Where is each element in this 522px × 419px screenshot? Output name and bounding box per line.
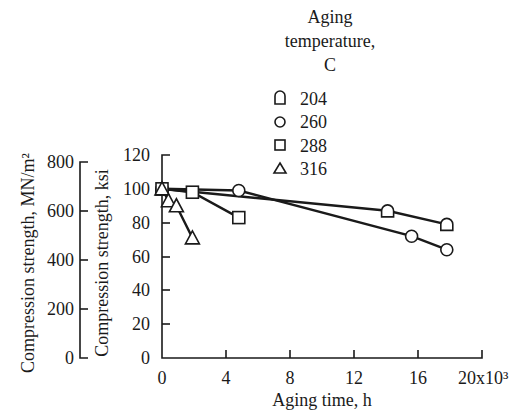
legend-title-line-3: C xyxy=(324,55,336,75)
x-tick-8: 8 xyxy=(286,368,295,388)
dome-marker-icon xyxy=(275,91,285,104)
legend-title-line-1: Aging xyxy=(308,7,353,27)
legend: Aging temperature, C 204 260 288 316 xyxy=(274,7,375,179)
x-tick-4: 4 xyxy=(222,368,231,388)
chart: Aging temperature, C 204 260 288 316 Com… xyxy=(0,0,522,419)
y-tick-20: 20 xyxy=(132,314,150,334)
square-marker-icon xyxy=(275,140,285,150)
legend-item-260: 260 xyxy=(275,112,327,132)
secondary-y-tick-0: 0 xyxy=(65,348,74,368)
triangle-marker-icon xyxy=(274,163,286,173)
legend-label-260: 260 xyxy=(300,112,327,132)
x-tick-16: 16 xyxy=(409,368,427,388)
x-axis: 0 4 8 12 16 20x10³ Aging time, h xyxy=(158,350,510,410)
secondary-y-tick-400: 400 xyxy=(47,250,74,270)
triangle-marker-icon xyxy=(185,231,199,244)
secondary-y-axis-label: Compression strength, MN/m² xyxy=(18,153,38,373)
x-tick-20: 20x10³ xyxy=(458,368,509,388)
y-tick-40: 40 xyxy=(132,280,150,300)
y-tick-80: 80 xyxy=(132,213,150,233)
secondary-y-axis: Compression strength, MN/m² 800 600 400 … xyxy=(18,152,88,373)
legend-label-204: 204 xyxy=(300,89,327,109)
y-tick-100: 100 xyxy=(123,179,150,199)
circle-marker-icon xyxy=(441,244,453,256)
y-tick-60: 60 xyxy=(132,247,150,267)
x-axis-label: Aging time, h xyxy=(272,390,372,410)
square-marker-icon xyxy=(186,186,198,198)
square-marker-icon xyxy=(233,212,245,224)
legend-label-288: 288 xyxy=(300,136,327,156)
legend-item-204: 204 xyxy=(275,89,327,109)
circle-marker-icon xyxy=(406,230,418,242)
secondary-y-tick-800: 800 xyxy=(47,152,74,172)
legend-item-288: 288 xyxy=(275,136,327,156)
primary-y-axis-label: Compression strength, ksi xyxy=(92,169,112,357)
series-layer xyxy=(155,182,453,256)
dome-marker-icon xyxy=(382,205,394,217)
secondary-y-tick-200: 200 xyxy=(47,299,74,319)
x-tick-0: 0 xyxy=(158,368,167,388)
legend-label-316: 316 xyxy=(300,159,327,179)
series-line xyxy=(162,189,447,225)
secondary-y-tick-600: 600 xyxy=(47,201,74,221)
y-tick-120: 120 xyxy=(123,145,150,165)
x-tick-12: 12 xyxy=(345,368,363,388)
primary-y-axis: Compression strength, ksi 120 100 80 60 … xyxy=(92,145,482,368)
dome-marker-icon xyxy=(441,218,453,230)
circle-marker-icon xyxy=(275,117,285,127)
series-260 xyxy=(156,183,453,256)
legend-item-316: 316 xyxy=(274,159,327,179)
circle-marker-icon xyxy=(233,185,245,197)
y-tick-0: 0 xyxy=(141,348,150,368)
legend-title-line-2: temperature, xyxy=(285,31,375,51)
